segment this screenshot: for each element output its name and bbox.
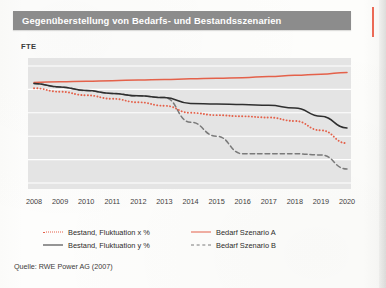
- legend-item: Bedarf Szenario A: [191, 226, 276, 238]
- page-edge-shadow: [379, 0, 386, 288]
- document-page: Gegenüberstellung von Bedarfs- und Besta…: [0, 0, 386, 288]
- x-axis-tick-label: 2020: [339, 197, 355, 206]
- x-axis-tick-label: 2008: [26, 197, 42, 206]
- chart-plot-area: [28, 58, 351, 189]
- chart-series-line: [34, 84, 347, 169]
- x-axis-tick-label: 2011: [104, 197, 120, 206]
- x-axis-tick-label: 2019: [313, 197, 329, 206]
- chart-legend: Bestand, Fluktuation x %Bestand, Fluktua…: [43, 226, 343, 254]
- x-axis-tick-label: 2016: [235, 197, 251, 206]
- legend-item: Bedarf Szenario B: [191, 239, 276, 251]
- x-axis-tick-label: 2017: [261, 197, 277, 206]
- x-axis-tick-label: 2018: [287, 197, 303, 206]
- chart-canvas: [28, 58, 351, 189]
- legend-item: Bestand, Fluktuation x %: [43, 226, 150, 238]
- x-axis-tick-label: 2009: [52, 197, 68, 206]
- y-axis-unit-label: FTE: [21, 42, 36, 51]
- legend-label: Bedarf Szenario A: [216, 228, 276, 237]
- x-axis-tick-label: 2013: [156, 197, 172, 206]
- legend-label: Bedarf Szenario B: [216, 241, 276, 250]
- legend-swatch-solid-icon: [191, 228, 211, 236]
- x-axis-tick-labels: 2008200920102011201220132014201520162017…: [28, 197, 351, 211]
- x-axis-tick-label: 2015: [208, 197, 224, 206]
- legend-label: Bestand, Fluktuation y %: [68, 241, 150, 250]
- figure-title-bar: Gegenüberstellung von Bedarfs- und Besta…: [13, 11, 351, 30]
- x-axis-tick-label: 2014: [182, 197, 198, 206]
- legend-swatch-dotted-icon: [43, 228, 63, 236]
- x-axis-tick-label: 2010: [78, 197, 94, 206]
- figure-source-note: Quelle: RWE Power AG (2007): [14, 262, 113, 271]
- legend-label: Bestand, Fluktuation x %: [68, 228, 150, 237]
- chart-series-line: [34, 88, 347, 143]
- legend-swatch-dashed-icon: [191, 241, 211, 249]
- page-edge-accent-bar: [372, 7, 374, 37]
- x-axis-tick-label: 2012: [130, 197, 146, 206]
- legend-swatch-solid-icon: [43, 241, 63, 249]
- figure-title: Gegenüberstellung von Bedarfs- und Besta…: [13, 15, 281, 26]
- legend-item: Bestand, Fluktuation y %: [43, 239, 150, 251]
- chart-series-line: [34, 72, 347, 82]
